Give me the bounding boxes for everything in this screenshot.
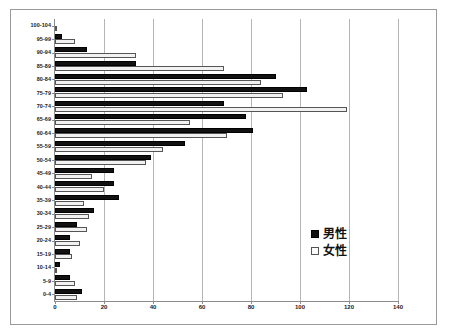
y-axis-category-label: 35-39 xyxy=(7,197,51,203)
y-axis-category-label: 10-14 xyxy=(7,264,51,270)
bar-female-70-74 xyxy=(55,107,347,112)
bar-male-15-19 xyxy=(55,249,70,254)
x-axis-tick-label: 0 xyxy=(53,304,56,310)
y-axis-category-label: 70-74 xyxy=(7,103,51,109)
legend-label-female: 女性 xyxy=(323,245,347,257)
bar-female-10-14 xyxy=(55,268,57,273)
chart-frame: 100-10495-9990-9485-8980-8475-7970-7465-… xyxy=(10,9,437,325)
y-axis-category-label: 55-59 xyxy=(7,143,51,149)
bar-row-90-94 xyxy=(55,46,398,59)
x-axis-tick-label: 100 xyxy=(295,304,305,310)
bar-male-45-49 xyxy=(55,168,114,173)
legend-item-female: 女性 xyxy=(311,245,389,257)
y-tick-mark-15-19 xyxy=(52,254,55,255)
bar-female-100-104 xyxy=(55,26,57,31)
y-axis-category-label: 80-84 xyxy=(7,76,51,82)
y-tick-mark-90-94 xyxy=(52,53,55,54)
y-axis-category-label: 50-54 xyxy=(7,157,51,163)
y-axis-category-label: 15-19 xyxy=(7,251,51,257)
bar-female-90-94 xyxy=(55,53,136,58)
bar-female-5-9 xyxy=(55,281,75,286)
legend-label-male: 男性 xyxy=(323,228,347,240)
bar-row-65-69 xyxy=(55,113,398,126)
legend-item-male: 男性 xyxy=(311,228,389,240)
y-tick-mark-60-64 xyxy=(52,133,55,134)
x-axis-tick-label: 120 xyxy=(344,304,354,310)
bar-female-95-99 xyxy=(55,39,75,44)
bar-female-50-54 xyxy=(55,160,146,165)
y-axis-category-label: 45-49 xyxy=(7,170,51,176)
bar-male-75-79 xyxy=(55,87,307,92)
legend-swatch-female-icon xyxy=(311,247,319,255)
bar-male-30-34 xyxy=(55,208,94,213)
y-tick-mark-65-69 xyxy=(52,120,55,121)
y-axis-category-label: 95-99 xyxy=(7,36,51,42)
bar-male-55-59 xyxy=(55,141,185,146)
y-axis-category-label: 40-44 xyxy=(7,184,51,190)
bar-row-0-4 xyxy=(55,288,398,301)
bar-row-35-39 xyxy=(55,194,398,207)
chart-legend: 男性 女性 xyxy=(311,228,389,262)
bar-row-10-14 xyxy=(55,261,398,274)
bar-female-85-89 xyxy=(55,66,224,71)
y-axis-category-label: 5-9 xyxy=(7,278,51,284)
y-axis-category-label: 20-24 xyxy=(7,237,51,243)
bar-row-45-49 xyxy=(55,167,398,180)
bar-female-40-44 xyxy=(55,187,104,192)
bar-row-95-99 xyxy=(55,32,398,45)
y-tick-mark-70-74 xyxy=(52,106,55,107)
y-tick-mark-0-4 xyxy=(52,294,55,295)
bar-female-15-19 xyxy=(55,254,72,259)
bar-row-60-64 xyxy=(55,126,398,139)
bar-row-50-54 xyxy=(55,153,398,166)
bar-row-75-79 xyxy=(55,86,398,99)
bar-row-80-84 xyxy=(55,73,398,86)
x-axis-tick-label: 40 xyxy=(150,304,157,310)
bar-male-0-4 xyxy=(55,289,82,294)
bar-female-20-24 xyxy=(55,241,80,246)
bar-male-80-84 xyxy=(55,74,276,79)
y-axis-category-label: 25-29 xyxy=(7,224,51,230)
y-tick-mark-85-89 xyxy=(52,66,55,67)
y-tick-mark-80-84 xyxy=(52,79,55,80)
bar-female-80-84 xyxy=(55,80,261,85)
y-axis-category-label: 0-4 xyxy=(7,291,51,297)
bar-row-70-74 xyxy=(55,100,398,113)
bar-male-60-64 xyxy=(55,128,253,133)
bar-male-10-14 xyxy=(55,262,60,267)
y-tick-mark-35-39 xyxy=(52,200,55,201)
y-tick-mark-50-54 xyxy=(52,160,55,161)
legend-swatch-male-icon xyxy=(311,230,319,238)
bar-row-100-104 xyxy=(55,19,398,32)
y-axis-category-label: 85-89 xyxy=(7,63,51,69)
y-tick-mark-30-34 xyxy=(52,214,55,215)
bar-female-60-64 xyxy=(55,133,227,138)
y-tick-mark-100-104 xyxy=(52,26,55,27)
y-axis-category-label: 100-104 xyxy=(7,22,51,28)
bar-female-55-59 xyxy=(55,147,163,152)
x-axis-tick-label: 80 xyxy=(248,304,255,310)
bar-male-20-24 xyxy=(55,235,70,240)
bar-female-75-79 xyxy=(55,93,283,98)
bar-male-35-39 xyxy=(55,195,119,200)
y-axis-category-label: 30-34 xyxy=(7,210,51,216)
bar-row-85-89 xyxy=(55,59,398,72)
bar-row-40-44 xyxy=(55,180,398,193)
bar-male-95-99 xyxy=(55,34,62,39)
bar-male-40-44 xyxy=(55,181,114,186)
bar-male-25-29 xyxy=(55,222,77,227)
y-tick-mark-95-99 xyxy=(52,39,55,40)
bar-female-35-39 xyxy=(55,201,84,206)
y-tick-mark-40-44 xyxy=(52,187,55,188)
y-axis-category-label: 65-69 xyxy=(7,116,51,122)
y-tick-mark-20-24 xyxy=(52,241,55,242)
bar-female-45-49 xyxy=(55,174,92,179)
bar-female-25-29 xyxy=(55,227,87,232)
bar-male-85-89 xyxy=(55,61,136,66)
bar-female-30-34 xyxy=(55,214,89,219)
y-tick-mark-25-29 xyxy=(52,227,55,228)
bar-male-50-54 xyxy=(55,155,151,160)
x-axis-tick-label: 60 xyxy=(199,304,206,310)
y-tick-mark-5-9 xyxy=(52,281,55,282)
bar-male-70-74 xyxy=(55,101,224,106)
